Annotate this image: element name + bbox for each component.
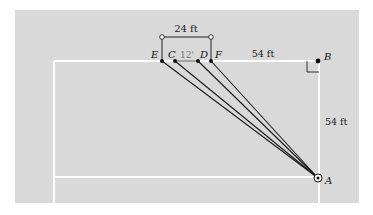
point-label-C: C bbox=[168, 49, 176, 60]
dim-endpoint-right bbox=[209, 35, 214, 40]
field-panel bbox=[15, 10, 359, 203]
point-label-B: B bbox=[323, 51, 331, 62]
dim-label-54ft-top: 54 ft bbox=[252, 48, 275, 59]
dim-endpoint-left bbox=[160, 35, 165, 40]
dim-label-54ft-right: 54 ft bbox=[325, 116, 348, 127]
point-label-F: F bbox=[214, 49, 223, 60]
point-B-dot bbox=[316, 59, 321, 64]
soccer-ball-icon bbox=[314, 174, 322, 182]
point-label-D: D bbox=[199, 49, 208, 60]
dim-label-24ft: 24 ft bbox=[174, 23, 198, 34]
point-label-E: E bbox=[150, 49, 159, 60]
point-label-A: A bbox=[324, 175, 332, 186]
point-E-dot bbox=[160, 59, 164, 63]
dim-label-12ft: 12' bbox=[180, 50, 194, 60]
diagram-canvas: 24 ft E C 12' D F 54 ft B 54 ft A bbox=[0, 0, 373, 215]
point-F-dot bbox=[209, 59, 213, 63]
